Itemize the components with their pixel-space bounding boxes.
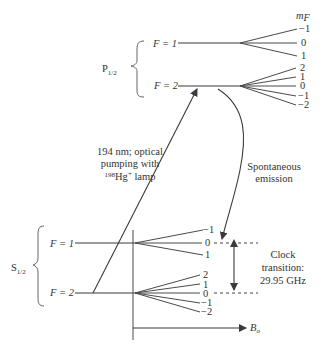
p-f1-mf-label: 0 (301, 37, 306, 48)
p-f1-mf-label: 1 (301, 50, 306, 61)
p-state-brace (131, 41, 144, 97)
p-f2-mf-label: −2 (298, 99, 309, 110)
emission-caption: Spontaneous emission (247, 161, 301, 184)
spontaneous-emission-arrow (218, 89, 244, 239)
s-f1-label: F = 1 (49, 238, 74, 249)
s-f1-zeeman (135, 230, 203, 255)
svg-text:Spontaneous: Spontaneous (247, 161, 301, 172)
optical-pumping-arrow (93, 89, 197, 293)
s-f1-mf-label: 0 (205, 237, 210, 248)
s-f1-mf-label: 1 (205, 249, 210, 260)
p-f2-label: F = 2 (153, 80, 179, 91)
svg-text:Clock: Clock (270, 249, 296, 260)
s-state-label: S1/2 (11, 262, 26, 276)
pumping-caption: 194 nm; optical pumping with 198Hg+ lamp (97, 146, 163, 182)
p-state-label: P1/2 (102, 63, 117, 77)
s-f1-mf-label: −1 (203, 224, 214, 235)
svg-text:pumping with: pumping with (101, 158, 160, 169)
p-state-group: P1/2 F = 1 −1 0 1 F = 2 2 1 0 −1 −2 (102, 23, 310, 110)
mf-header: mF (296, 10, 311, 23)
p-f1-zeeman (240, 29, 297, 56)
field-axis-label: Bo (250, 322, 260, 335)
s-state-brace (33, 226, 44, 306)
hyperfine-energy-diagram: mF P1/2 F = 1 −1 0 1 F = 2 2 1 0 −1 −2 (0, 0, 324, 352)
s-f2-mf-label: −2 (201, 306, 212, 317)
s-f2-label: F = 2 (49, 287, 75, 298)
svg-text:194 nm; optical: 194 nm; optical (97, 146, 163, 157)
p-f2-zeeman (240, 68, 296, 105)
s-state-group: S1/2 F = 1 −1 0 1 F = 2 2 1 0 −1 −2 (11, 224, 214, 317)
p-f1-mf-label: −1 (299, 23, 310, 34)
svg-text:emission: emission (255, 173, 293, 184)
p-f1-label: F = 1 (152, 38, 177, 49)
svg-text:29.95 GHz: 29.95 GHz (260, 275, 306, 286)
s-f2-zeeman (135, 275, 200, 312)
svg-text:198Hg+ lamp: 198Hg+ lamp (105, 170, 156, 182)
svg-text:transition:: transition: (262, 262, 305, 273)
clock-caption: Clock transition: 29.95 GHz (260, 249, 306, 286)
